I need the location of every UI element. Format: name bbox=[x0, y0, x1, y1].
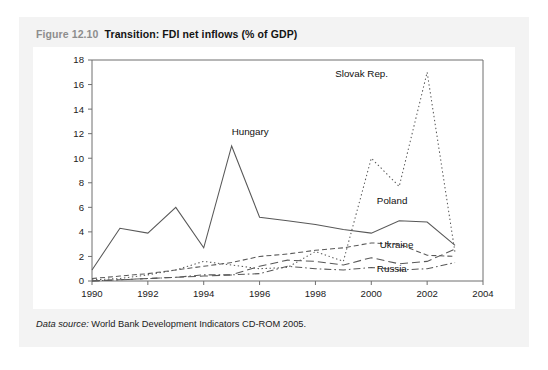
y-tick-label: 4 bbox=[79, 226, 85, 237]
line-chart: 024681012141618 199019921994199619982000… bbox=[33, 47, 515, 309]
source-label: Data source: bbox=[36, 319, 89, 329]
y-tick-label: 14 bbox=[73, 104, 84, 115]
x-tick-label: 1994 bbox=[193, 288, 215, 299]
x-axis: 19901992199419961998200020022004 bbox=[81, 281, 494, 299]
x-tick-label: 2004 bbox=[472, 288, 494, 299]
y-tick-label: 6 bbox=[79, 202, 84, 213]
series-label-russia: Russia bbox=[377, 263, 407, 274]
chart-plot-area: 024681012141618 199019921994199619982000… bbox=[33, 47, 515, 309]
x-tick-label: 1990 bbox=[81, 288, 102, 299]
y-tick-label: 10 bbox=[73, 153, 84, 164]
data-source-note: Data source: World Bank Development Indi… bbox=[36, 319, 306, 329]
x-tick-label: 2002 bbox=[416, 288, 437, 299]
series-label-slovak-rep: Slovak Rep. bbox=[335, 68, 388, 79]
series-label-ukraine: Ukraine bbox=[380, 239, 414, 250]
y-tick-label: 12 bbox=[73, 128, 84, 139]
x-tick-label: 2000 bbox=[361, 288, 382, 299]
figure-caption: Figure 12.10 Transition: FDI net inflows… bbox=[36, 28, 297, 40]
series-label-poland: Poland bbox=[377, 195, 408, 206]
series-labels: HungarySlovak Rep.PolandUkraineRussia bbox=[232, 68, 414, 274]
y-tick-label: 0 bbox=[79, 275, 84, 286]
y-tick-label: 16 bbox=[73, 79, 84, 90]
y-tick-label: 8 bbox=[79, 177, 84, 188]
x-tick-label: 1998 bbox=[305, 288, 326, 299]
series-line-hungary bbox=[92, 146, 455, 270]
figure-panel: Figure 12.10 Transition: FDI net inflows… bbox=[19, 17, 529, 347]
y-axis: 024681012141618 bbox=[73, 54, 92, 286]
figure-title: Transition: FDI net inflows (% of GDP) bbox=[105, 28, 298, 40]
plot-frame bbox=[92, 60, 483, 281]
figure-number: Figure 12.10 bbox=[36, 28, 98, 40]
y-tick-label: 18 bbox=[73, 54, 84, 65]
source-text: World Bank Development Indicators CD-ROM… bbox=[91, 319, 306, 329]
series-label-hungary: Hungary bbox=[232, 126, 269, 137]
x-tick-label: 1992 bbox=[137, 288, 158, 299]
x-tick-label: 1996 bbox=[249, 288, 270, 299]
y-tick-label: 2 bbox=[79, 251, 84, 262]
